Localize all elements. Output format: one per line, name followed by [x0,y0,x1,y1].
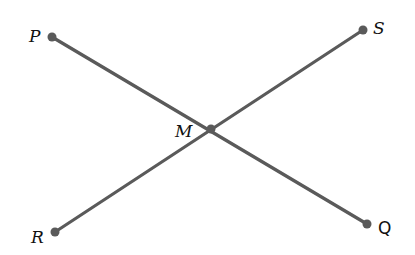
label-m: M [174,121,193,141]
diagram-canvas: P S M R Q [0,0,415,255]
label-q: Q [378,218,391,238]
point-q [363,220,372,229]
diagram-svg: P S M R Q [0,0,415,255]
label-s: S [373,18,385,38]
label-r: R [30,227,44,247]
point-p [48,33,57,42]
label-p: P [28,26,41,46]
point-s [359,26,368,35]
point-r [51,228,60,237]
point-m [207,125,216,134]
